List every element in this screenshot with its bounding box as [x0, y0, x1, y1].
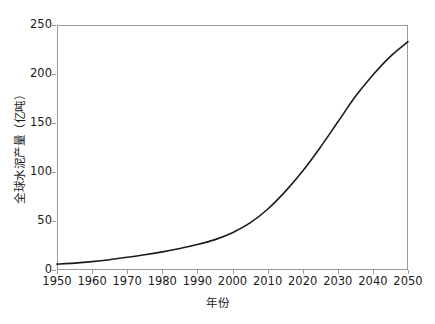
y-axis-title: 全球水泥产量（亿吨） [11, 21, 27, 271]
series-line-global-cement-output [57, 42, 408, 264]
chart-plot-svg [57, 25, 408, 270]
y-tick-mark-250 [52, 25, 56, 26]
x-tick-label-2050: 2050 [383, 276, 433, 288]
x-axis-title: 年份 [0, 294, 435, 310]
y-tick-mark-200 [52, 74, 56, 75]
chart-figure: 050100150200250 195019601970198019902000… [0, 0, 435, 324]
y-tick-mark-0 [52, 270, 56, 271]
y-tick-mark-100 [52, 172, 56, 173]
y-tick-mark-150 [52, 123, 56, 124]
x-axis-tick-labels: 1950196019701980199020002010202020302040… [0, 276, 435, 292]
y-tick-mark-50 [52, 221, 56, 222]
